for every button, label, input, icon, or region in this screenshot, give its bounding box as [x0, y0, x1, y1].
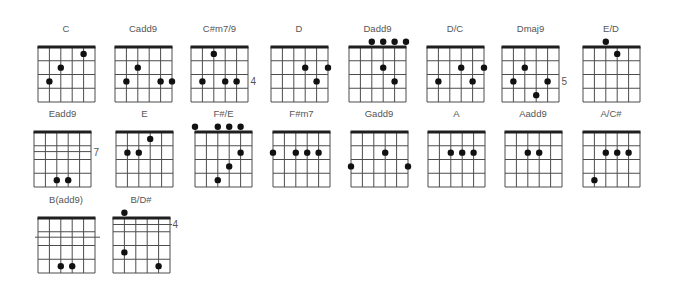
chord-diagram-b-add9: B(add9) — [38, 218, 95, 273]
finger-dot — [435, 78, 441, 84]
nut-bar — [195, 130, 253, 133]
chord-diagram-csharp-m7-9: C#m7/94 — [191, 47, 248, 102]
fretboard-grid: 4 — [113, 218, 170, 273]
finger-dot — [233, 78, 239, 84]
nut-bar — [582, 130, 640, 133]
nut-bar — [34, 130, 92, 133]
open-string-dot — [380, 39, 386, 45]
chord-diagram-gadd9: Gadd9 — [351, 132, 408, 187]
finger-dot — [380, 64, 386, 70]
finger-dot — [80, 51, 86, 57]
fretboard-grid — [271, 47, 328, 102]
fretboard-grid — [583, 47, 640, 102]
fretboard-grid — [116, 132, 173, 187]
finger-dot — [57, 64, 63, 70]
finger-dot — [522, 64, 528, 70]
chord-diagram-e-over-d: E/D — [583, 47, 640, 102]
finger-dot — [304, 149, 310, 155]
fret-number-label: 5 — [562, 76, 568, 87]
nut-bar — [504, 130, 562, 133]
finger-dot — [69, 262, 75, 268]
fretboard-grid — [273, 132, 330, 187]
finger-dot — [510, 78, 516, 84]
nut-bar — [428, 130, 486, 133]
finger-dot — [533, 92, 539, 98]
fretboard-grid — [115, 47, 172, 102]
finger-dot — [147, 135, 153, 141]
finger-dot — [57, 262, 63, 268]
finger-dot — [347, 163, 353, 169]
finger-dot — [226, 163, 232, 169]
finger-dot — [157, 78, 163, 84]
open-string-dot — [403, 39, 409, 45]
nut-bar — [273, 130, 331, 133]
nut-bar — [270, 46, 328, 49]
finger-dot — [458, 64, 464, 70]
fretboard-grid — [349, 47, 406, 102]
chord-chart: C Cadd9 C#m7/94 D Dadd9 D/C Dmaj95 E/D E… — [0, 0, 675, 290]
fretboard-grid — [427, 47, 484, 102]
chord-diagram-fsharp-over-e: F#/E — [195, 132, 252, 187]
chord-diagram-b-over-dsharp: B/D#4 — [113, 218, 170, 273]
finger-dot — [614, 51, 620, 57]
nut-bar — [349, 46, 407, 49]
open-string-dot — [192, 123, 198, 129]
chord-diagram-a-over-csharp: A/C# — [583, 132, 640, 187]
finger-dot — [625, 149, 631, 155]
chord-diagram-cadd9: Cadd9 — [115, 47, 172, 102]
open-string-dot — [369, 39, 375, 45]
fretboard-grid — [351, 132, 408, 187]
chord-diagram-fsharp-m7: F#m7 — [273, 132, 330, 187]
finger-dot — [404, 163, 410, 169]
finger-dot — [324, 64, 330, 70]
finger-dot — [199, 78, 205, 84]
chord-diagram-a: A — [428, 132, 485, 187]
nut-bar — [502, 46, 560, 49]
finger-dot — [222, 78, 228, 84]
nut-bar — [426, 46, 484, 49]
fretboard-grid — [38, 218, 95, 273]
finger-dot — [293, 149, 299, 155]
finger-dot — [315, 149, 321, 155]
finger-dot — [215, 176, 221, 182]
chord-diagram-c: C — [38, 47, 95, 102]
finger-dot — [121, 249, 127, 255]
finger-dot — [136, 149, 142, 155]
fret-number-label: 4 — [251, 76, 257, 87]
finger-dot — [591, 176, 597, 182]
chord-diagram-eadd9: Eadd97 — [34, 132, 91, 187]
fretboard-grid — [195, 132, 252, 187]
finger-dot — [302, 64, 308, 70]
nut-bar — [37, 216, 95, 219]
fretboard-grid: 7 — [34, 132, 91, 187]
fretboard-grid — [428, 132, 485, 187]
open-string-dot — [391, 39, 397, 45]
nut-bar — [37, 46, 95, 49]
finger-dot — [168, 78, 174, 84]
finger-dot — [54, 176, 60, 182]
chord-diagram-dmaj9: Dmaj95 — [502, 47, 559, 102]
finger-dot — [382, 149, 388, 155]
fretboard-grid — [505, 132, 562, 187]
nut-bar — [582, 46, 640, 49]
finger-dot — [134, 64, 140, 70]
chord-name: A/C# — [558, 108, 665, 120]
nut-bar — [112, 216, 170, 219]
finger-dot — [469, 78, 475, 84]
chord-diagram-aadd9: Aadd9 — [505, 132, 562, 187]
finger-dot — [524, 149, 530, 155]
open-string-dot — [121, 209, 127, 215]
finger-dot — [480, 64, 486, 70]
nut-bar — [114, 46, 172, 49]
fretboard-grid: 5 — [502, 47, 559, 102]
fretboard-grid — [583, 132, 640, 187]
finger-dot — [65, 176, 71, 182]
finger-dot — [124, 149, 130, 155]
open-string-dot — [215, 123, 221, 129]
nut-bar — [191, 46, 249, 49]
open-string-dot — [602, 39, 608, 45]
finger-dot — [602, 149, 608, 155]
fret-number-label: 7 — [94, 147, 100, 158]
finger-dot — [614, 149, 620, 155]
finger-dot — [155, 262, 161, 268]
